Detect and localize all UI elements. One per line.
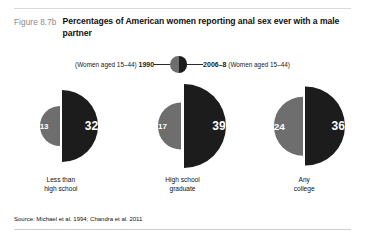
legend-left-connector [154, 64, 170, 65]
category-line-1: High school [122, 176, 244, 185]
value-label-2006-8: 32 [85, 119, 98, 133]
category-line-2: college [243, 185, 365, 194]
title-row: Figure 8.7b Percentages of American wome… [14, 16, 349, 39]
source-note: Source: Michael et al. 1994; Chandra et … [14, 215, 142, 223]
category-label-less-than-high-school: Less than high school [0, 176, 122, 193]
top-divider [14, 8, 351, 9]
bottom-divider [14, 229, 351, 230]
category-labels: Less than high school High school gradua… [0, 176, 365, 193]
split-circle-left-half [170, 56, 179, 73]
data-group-less-than-high-school: 13 32 [0, 78, 122, 174]
split-circle-right-half [179, 56, 188, 73]
category-line-2: high school [0, 185, 122, 194]
half-circle-2006-8: 39 [184, 84, 226, 168]
half-circle-2006-8: 32 [62, 90, 98, 162]
legend-right-agegroup: (Women aged 15–44) [228, 61, 290, 68]
value-label-2006-8: 39 [212, 119, 225, 133]
legend: (Women aged 15–44) 1990 2006–8 (Women ag… [0, 56, 365, 73]
half-circle-1990: 13 [40, 106, 60, 146]
data-group-any-college: 24 36 [243, 78, 365, 174]
legend-right-connector [187, 64, 203, 65]
value-label-1990: 24 [274, 120, 285, 131]
category-line-2: graduate [122, 185, 244, 194]
category-line-1: Any [243, 176, 365, 185]
category-label-any-college: Any college [243, 176, 365, 193]
half-circle-1990: 24 [274, 97, 303, 156]
value-label-1990: 17 [158, 121, 167, 130]
category-line-1: Less than [0, 176, 122, 185]
value-label-2006-8: 36 [331, 119, 344, 133]
chart-area: 13 32 17 39 24 [0, 78, 365, 174]
figure-label: Figure 8.7b [14, 16, 57, 28]
half-circle-2006-8: 36 [305, 87, 344, 166]
legend-left-agegroup: (Women aged 15–44) [75, 61, 137, 68]
legend-right-year: 2006–8 [203, 61, 226, 68]
figure-container: Figure 8.7b Percentages of American wome… [0, 0, 365, 243]
legend-right-label: 2006–8 (Women aged 15–44) [203, 61, 290, 69]
split-circle-icon [170, 56, 187, 73]
legend-left-year: 1990 [139, 61, 155, 68]
legend-left-label: (Women aged 15–44) 1990 [75, 61, 154, 69]
category-label-high-school-graduate: High school graduate [122, 176, 244, 193]
value-label-1990: 13 [40, 122, 49, 131]
data-group-high-school-graduate: 17 39 [122, 78, 244, 174]
figure-title: Percentages of American women reporting … [63, 16, 349, 39]
half-circle-1990: 17 [158, 103, 181, 150]
